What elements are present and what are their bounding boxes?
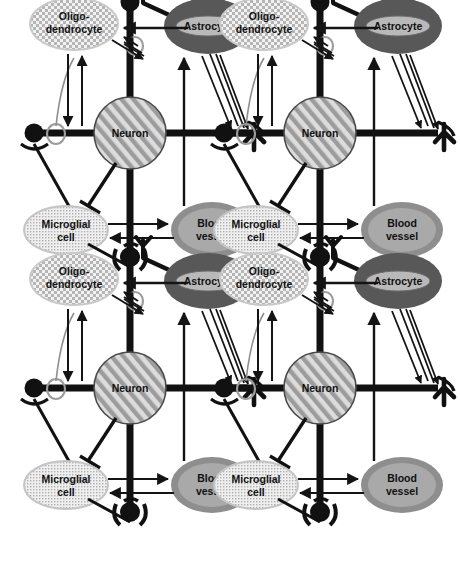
figure-canvas: Oligo- dendrocyte Astrocyte xyxy=(0,0,460,588)
neurovascular-unit-diagram: Oligo- dendrocyte Astrocyte xyxy=(0,0,460,588)
figure-caption xyxy=(0,574,460,588)
